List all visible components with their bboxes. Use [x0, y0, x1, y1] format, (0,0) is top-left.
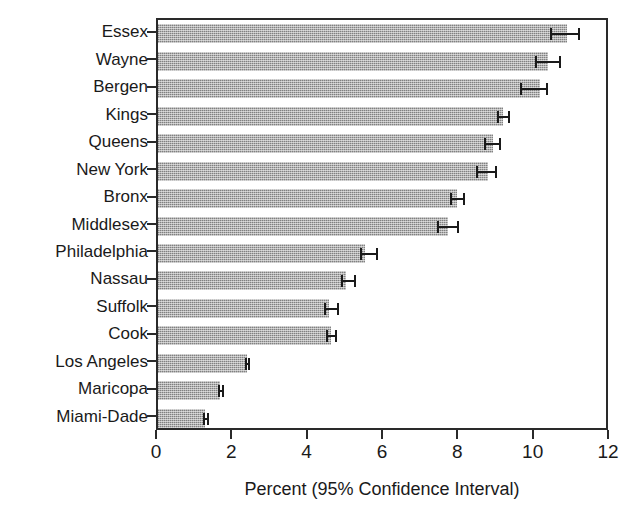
bar — [158, 354, 247, 373]
error-bar-cap-lower — [324, 303, 326, 315]
x-axis-tick-label-8: 8 — [437, 441, 477, 463]
bar-row — [158, 52, 610, 71]
error-bar — [550, 33, 580, 35]
error-bar-cap-upper — [376, 248, 378, 260]
error-bar — [476, 171, 497, 173]
error-bar-cap-lower — [484, 138, 486, 150]
bar — [158, 162, 488, 181]
x-axis-tick-labels: 024681012 — [0, 441, 639, 467]
error-bar — [324, 308, 339, 310]
bar — [158, 409, 205, 428]
y-axis-ticks — [0, 18, 156, 430]
x-axis-tick — [306, 430, 308, 439]
bar — [158, 189, 457, 208]
bar — [158, 244, 365, 263]
x-axis-tick-label-12: 12 — [588, 441, 628, 463]
x-axis-tick-label-6: 6 — [362, 441, 402, 463]
error-bar — [326, 335, 337, 337]
x-axis-tick-label-2: 2 — [211, 441, 251, 463]
error-bar-cap-lower — [450, 193, 452, 205]
x-axis-tick — [456, 430, 458, 439]
error-bar-cap-upper — [207, 413, 209, 425]
error-bar-cap-lower — [550, 28, 552, 40]
y-axis-tick — [147, 360, 156, 362]
y-axis-tick — [147, 388, 156, 390]
bar-row — [158, 189, 610, 208]
error-bar-cap-lower — [341, 275, 343, 287]
bar-row — [158, 381, 610, 400]
error-bar-cap-lower — [476, 166, 478, 178]
bar-chart-figure: EssexWayneBergenKingsQueensNew YorkBronx… — [0, 0, 639, 527]
y-axis-tick — [147, 141, 156, 143]
error-bar — [535, 61, 561, 63]
bar — [158, 134, 493, 153]
error-bar-cap-lower — [497, 111, 499, 123]
error-bar-cap-lower — [218, 385, 220, 397]
bar-row — [158, 134, 610, 153]
bar-row — [158, 79, 610, 98]
x-axis-tick-label-10: 10 — [513, 441, 553, 463]
bar-row — [158, 271, 610, 290]
error-bar — [203, 418, 209, 420]
x-axis-tick-label-4: 4 — [287, 441, 327, 463]
bar — [158, 79, 540, 98]
y-axis-tick — [147, 333, 156, 335]
bar — [158, 326, 331, 345]
error-bar-cap-upper — [222, 385, 224, 397]
error-bar-cap-lower — [360, 248, 362, 260]
error-bar-cap-lower — [535, 56, 537, 68]
bar-row — [158, 354, 610, 373]
plot-area — [156, 18, 608, 430]
bar-row — [158, 24, 610, 43]
error-bar — [360, 253, 379, 255]
x-axis-tick-label-0: 0 — [136, 441, 176, 463]
error-bar-cap-upper — [546, 83, 548, 95]
bar-row — [158, 244, 610, 263]
error-bar-cap-upper — [559, 56, 561, 68]
bar — [158, 52, 548, 71]
error-bar-cap-upper — [495, 166, 497, 178]
x-axis-title: Percent (95% Confidence Interval) — [156, 478, 608, 500]
y-axis-tick — [147, 415, 156, 417]
bar-row — [158, 326, 610, 345]
bar-row — [158, 299, 610, 318]
y-axis-tick — [147, 168, 156, 170]
error-bar-cap-upper — [335, 330, 337, 342]
bar-row — [158, 162, 610, 181]
y-axis-tick — [147, 58, 156, 60]
error-bar-cap-lower — [520, 83, 522, 95]
bar-row — [158, 217, 610, 236]
error-bar — [218, 390, 224, 392]
error-bar — [437, 226, 460, 228]
error-bar — [520, 88, 548, 90]
error-bar-cap-upper — [508, 111, 510, 123]
error-bar-cap-upper — [354, 275, 356, 287]
y-axis-tick — [147, 86, 156, 88]
bar — [158, 24, 567, 43]
y-axis-tick — [147, 278, 156, 280]
y-axis-tick — [147, 196, 156, 198]
bar — [158, 381, 220, 400]
error-bar-cap-upper — [578, 28, 580, 40]
x-axis-tick — [155, 430, 157, 439]
error-bar-cap-lower — [437, 221, 439, 233]
error-bar — [450, 198, 465, 200]
error-bar-cap-lower — [326, 330, 328, 342]
error-bar-cap-upper — [337, 303, 339, 315]
bar-row — [158, 409, 610, 428]
x-axis-tick — [230, 430, 232, 439]
error-bar — [245, 363, 251, 365]
x-axis-tick — [532, 430, 534, 439]
error-bar — [341, 280, 356, 282]
y-axis-tick — [147, 305, 156, 307]
error-bar — [497, 116, 510, 118]
x-axis-tick — [607, 430, 609, 439]
y-axis-tick — [147, 31, 156, 33]
bar — [158, 271, 346, 290]
x-axis-tick — [381, 430, 383, 439]
y-axis-tick — [147, 250, 156, 252]
error-bar-cap-lower — [203, 413, 205, 425]
bar-row — [158, 107, 610, 126]
error-bar — [484, 143, 501, 145]
error-bar-cap-upper — [457, 221, 459, 233]
